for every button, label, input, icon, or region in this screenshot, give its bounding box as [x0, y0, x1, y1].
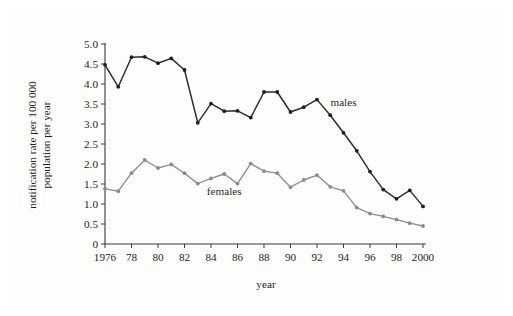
x-tick-label-96: 96 — [364, 251, 376, 263]
data-point-females-2000 — [421, 224, 425, 228]
data-point-males-1996 — [368, 170, 372, 174]
x-tick-labels: 197678808284868890929496982000 — [94, 251, 435, 263]
data-point-females-1989 — [275, 171, 279, 175]
y-tick-label-0: 0 — [92, 238, 98, 250]
y-tick-label-0.5: 0.5 — [84, 218, 98, 230]
data-point-females-1983 — [196, 182, 200, 186]
data-point-females-1979 — [143, 158, 147, 162]
series-line-males — [105, 57, 423, 207]
x-tick-label-86: 86 — [232, 251, 244, 263]
data-point-males-1993 — [328, 113, 332, 117]
line-chart: 00.51.01.52.02.53.03.54.04.55.0 19767880… — [0, 0, 513, 316]
data-point-males-1989 — [275, 90, 279, 94]
y-tick-labels: 00.51.01.52.02.53.03.54.04.55.0 — [84, 38, 98, 250]
y-tick-label-4.0: 4.0 — [84, 78, 98, 90]
figure-root: 00.51.01.52.02.53.03.54.04.55.0 19767880… — [0, 0, 513, 316]
data-point-males-1990 — [289, 110, 293, 114]
males-label: males — [330, 96, 356, 108]
data-point-males-1978 — [130, 55, 134, 59]
y-tick-label-2.0: 2.0 — [84, 158, 98, 170]
data-point-females-1998 — [395, 218, 399, 222]
x-tick-label-94: 94 — [338, 251, 350, 263]
data-point-males-1995 — [355, 149, 359, 153]
data-point-females-1981 — [169, 163, 173, 167]
data-point-males-1983 — [196, 121, 200, 125]
data-point-males-1997 — [381, 188, 385, 192]
y-tick-label-1.5: 1.5 — [84, 178, 98, 190]
x-tick-label-98: 98 — [391, 251, 403, 263]
data-point-females-1996 — [368, 212, 372, 216]
y-axis-title-line-1: notification rate per 100 000 — [26, 81, 38, 209]
x-tick-label-90: 90 — [285, 251, 297, 263]
data-point-females-1984 — [209, 177, 213, 181]
x-tick-label-80: 80 — [152, 251, 164, 263]
x-tick-label-2000: 2000 — [412, 251, 435, 263]
chart-plot-area: 00.51.01.52.02.53.03.54.04.55.0 19767880… — [0, 0, 513, 316]
x-tick-label-92: 92 — [311, 251, 322, 263]
data-point-females-1982 — [183, 171, 187, 175]
data-point-males-1994 — [342, 131, 346, 135]
data-point-females-1990 — [289, 185, 293, 189]
data-point-females-1976 — [103, 187, 107, 191]
data-point-females-1980 — [156, 166, 160, 170]
data-point-males-1988 — [262, 90, 266, 94]
data-point-females-1999 — [408, 221, 412, 225]
data-point-males-1979 — [143, 55, 147, 59]
x-tick-label-78: 78 — [126, 251, 138, 263]
axes-group — [101, 43, 426, 248]
females-label: females — [207, 185, 242, 197]
data-point-males-1991 — [302, 105, 306, 109]
data-point-females-1997 — [381, 215, 385, 219]
data-series-group — [103, 55, 425, 228]
y-axis-title-line-2: population per year — [40, 101, 52, 188]
data-point-males-1976 — [103, 63, 107, 67]
data-point-males-1982 — [183, 68, 187, 72]
data-point-females-1993 — [328, 185, 332, 189]
data-point-females-1992 — [315, 173, 319, 177]
x-tick-label-84: 84 — [205, 251, 217, 263]
data-point-males-1992 — [315, 98, 319, 102]
y-tick-label-5.0: 5.0 — [84, 38, 98, 50]
data-point-females-1994 — [342, 189, 346, 193]
x-tick-label-82: 82 — [179, 251, 190, 263]
data-point-males-1981 — [169, 57, 173, 61]
x-tick-label-88: 88 — [258, 251, 270, 263]
data-point-females-1995 — [355, 206, 359, 210]
x-tick-label-1976: 1976 — [94, 251, 117, 263]
y-tick-label-4.5: 4.5 — [84, 58, 98, 70]
data-point-females-1978 — [130, 171, 134, 175]
data-point-females-1987 — [249, 162, 253, 166]
data-point-females-1991 — [302, 178, 306, 182]
x-axis-title: year — [256, 278, 276, 290]
data-point-males-1998 — [395, 197, 399, 201]
data-point-females-1988 — [262, 169, 266, 173]
y-tick-label-1.0: 1.0 — [84, 198, 98, 210]
data-point-males-1977 — [116, 85, 120, 89]
data-point-males-1985 — [222, 109, 226, 113]
y-tick-label-2.5: 2.5 — [84, 138, 98, 150]
data-point-males-2000 — [421, 205, 425, 209]
data-point-males-1984 — [209, 102, 213, 106]
data-point-males-1999 — [408, 189, 412, 193]
data-point-males-1980 — [156, 61, 160, 65]
data-point-females-1977 — [116, 189, 120, 193]
data-point-females-1985 — [222, 172, 226, 176]
y-tick-label-3.5: 3.5 — [84, 98, 98, 110]
y-tick-label-3.0: 3.0 — [84, 118, 98, 130]
data-point-males-1986 — [236, 109, 240, 113]
data-point-males-1987 — [249, 116, 253, 120]
axis-lines — [105, 43, 426, 244]
